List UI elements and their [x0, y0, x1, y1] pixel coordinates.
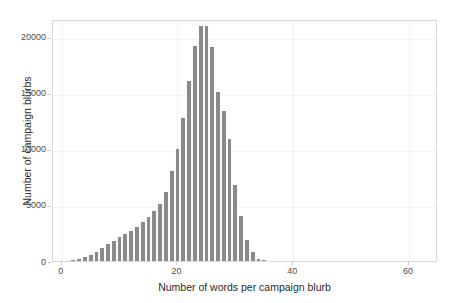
- y-tick-label: 5000: [2, 200, 46, 211]
- y-tick-mark: [48, 94, 51, 95]
- y-tick-mark: [48, 38, 51, 39]
- histogram-figure: Number of campaign blurbs 05000100001500…: [0, 0, 453, 303]
- plot-panel: [52, 20, 437, 262]
- y-tick-label: 0: [2, 257, 46, 268]
- gridline-horizontal: [53, 95, 436, 96]
- y-tick-label: 15000: [2, 88, 46, 99]
- gridline-horizontal: [53, 207, 436, 208]
- y-tick-label: 20000: [2, 32, 46, 43]
- gridline-horizontal: [53, 39, 436, 40]
- x-tick-mark: [292, 262, 293, 265]
- x-tick-mark: [61, 262, 62, 265]
- x-tick-label: 60: [388, 266, 428, 277]
- x-tick-mark: [408, 262, 409, 265]
- x-tick-mark: [176, 262, 177, 265]
- y-tick-mark: [48, 206, 51, 207]
- gridline-vertical: [62, 21, 63, 261]
- gridline-vertical: [409, 21, 410, 261]
- y-tick-mark: [48, 262, 51, 263]
- x-tick-label: 40: [272, 266, 312, 277]
- y-tick-mark: [48, 150, 51, 151]
- x-tick-label: 0: [41, 266, 81, 277]
- y-tick-label: 10000: [2, 144, 46, 155]
- gridline-horizontal: [53, 151, 436, 152]
- gridline-vertical: [293, 21, 294, 261]
- x-axis-title: Number of words per campaign blurb: [52, 281, 437, 293]
- x-tick-label: 20: [156, 266, 196, 277]
- y-axis-tick-labels: 05000100001500020000: [0, 0, 46, 303]
